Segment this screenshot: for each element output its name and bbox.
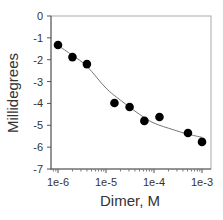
y-axis-title: Millidegrees: [4, 53, 21, 133]
y-tick-label: -7: [33, 163, 43, 175]
y-tick-label: -2: [33, 54, 43, 66]
fit-curve: [58, 46, 202, 138]
data-point: [83, 60, 92, 69]
x-tick-label: 1e-4: [143, 176, 165, 188]
data-point: [155, 113, 164, 122]
data-point: [68, 53, 77, 62]
y-tick-label: -5: [33, 119, 43, 131]
data-point: [54, 41, 63, 50]
data-point: [140, 117, 149, 126]
y-tick-label: -1: [33, 32, 43, 44]
y-tick-label: -4: [33, 97, 43, 109]
x-tick-label: 1e-6: [47, 176, 69, 188]
y-tick-label: 0: [37, 10, 43, 22]
x-axis-title: Dimer, M: [100, 192, 160, 209]
x-tick-label: 1e-5: [95, 176, 117, 188]
chart: 0-1-2-3-4-5-6-7 1e-61e-51e-41e-3 Millide…: [0, 0, 223, 220]
x-tick-label: 1e-3: [191, 176, 213, 188]
y-tick-label: -3: [33, 76, 43, 88]
x-axis: 1e-61e-51e-41e-3: [47, 169, 213, 188]
data-point: [198, 138, 207, 147]
plot-frame: [51, 16, 211, 170]
y-axis: 0-1-2-3-4-5-6-7: [33, 10, 51, 175]
data-point: [125, 103, 134, 112]
y-tick-label: -6: [33, 141, 43, 153]
data-point: [184, 129, 193, 138]
data-points: [54, 41, 207, 146]
data-point: [110, 99, 119, 108]
